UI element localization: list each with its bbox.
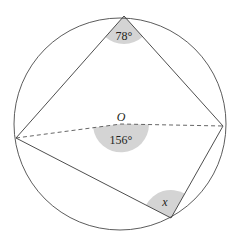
angle-label-center: 156° — [110, 133, 133, 147]
center-label: O — [117, 110, 126, 124]
circle — [14, 18, 226, 230]
angle-label-top: 78° — [116, 29, 133, 43]
angle-label-bottom: x — [161, 195, 168, 209]
diagram: 78° O 156° x — [0, 0, 234, 245]
circle-diagram: 78° O 156° x — [0, 0, 234, 245]
